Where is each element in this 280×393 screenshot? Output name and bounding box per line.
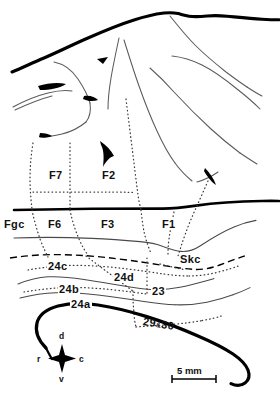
- compass-rose-group: [48, 344, 76, 373]
- sulcus-midline-long: [108, 38, 119, 109]
- sulcus-arc-left-lower: [86, 103, 90, 122]
- compass-label-dorsal: d: [59, 332, 64, 341]
- compass-star-icon: [48, 344, 76, 373]
- area-label-24d: 24d: [113, 272, 135, 283]
- brain-map-drawing: [0, 0, 280, 393]
- dotted-divider-fgc-down: [32, 210, 48, 257]
- boundary-right-tail: [233, 288, 250, 295]
- area-label-fgc: Fgc: [3, 219, 26, 230]
- sulcal-mark-left-tip: [39, 133, 52, 138]
- sulcal-mark-small-top: [97, 57, 108, 64]
- compass-label-ventral: v: [59, 375, 64, 384]
- dorsal-outline-group: [12, 13, 279, 72]
- scale-bar-label: 5 mm: [177, 366, 202, 376]
- sulcal-marks-group: [38, 57, 216, 185]
- sulcus-upper-right-1: [170, 16, 247, 87]
- compass-label-rostral: r: [37, 355, 40, 364]
- dashed-boundary-group: [10, 255, 246, 270]
- sulcal-mark-right-tip: [204, 168, 216, 185]
- area-label-24c: 24c: [47, 261, 69, 272]
- sulcus-central-lower: [175, 163, 192, 181]
- sulcal-mark-mid: [83, 96, 98, 101]
- area-label-f7: F7: [48, 170, 64, 181]
- boundary-f-row-top: [14, 201, 279, 210]
- dotted-boundary-24b-24a: [24, 288, 146, 294]
- dotted-boundary-24d-right: [189, 265, 240, 276]
- sulcus-upper-right-4: [240, 153, 257, 164]
- sulcal-mark-f2-y: [100, 141, 114, 167]
- compass-label-caudal: c: [79, 355, 84, 364]
- sulcal-mark-left-bar: [38, 83, 66, 90]
- boundary-23-bottom: [175, 295, 233, 305]
- dashed-boundary-upper: [10, 255, 246, 270]
- area-label-30: 30: [161, 318, 176, 332]
- area-label-skc: Skc: [179, 254, 202, 265]
- area-label-24b: 24b: [58, 284, 80, 295]
- dotted-divider-f1-skc: [178, 181, 208, 256]
- dotted-boundary-2930-tail: [202, 316, 222, 321]
- area-label-f6: F6: [47, 219, 63, 230]
- dotted-divider-f6-down: [70, 210, 88, 255]
- dotted-divider-fgc-f7: [30, 143, 33, 209]
- area-label-f3: F3: [100, 219, 116, 230]
- sulci-group: [13, 16, 262, 182]
- dorsal-midline-contour: [12, 13, 279, 72]
- area-label-f1: F1: [161, 219, 177, 230]
- area-label-23: 23: [151, 286, 166, 297]
- corpus-callosum-hook-left: [46, 348, 52, 359]
- area-label-24a: 24a: [70, 299, 92, 310]
- brain-map-figure: F7 F2 Fgc F6 F3 F1 Skc 24c 24d 24b 23 24…: [0, 0, 280, 393]
- scale-bar-group: [172, 375, 216, 383]
- area-label-f2: F2: [101, 170, 117, 181]
- dotted-divider-24a-2930: [133, 291, 136, 327]
- dotted-divider-f3-down: [141, 210, 151, 253]
- sulcus-upper-right-1b: [247, 87, 262, 96]
